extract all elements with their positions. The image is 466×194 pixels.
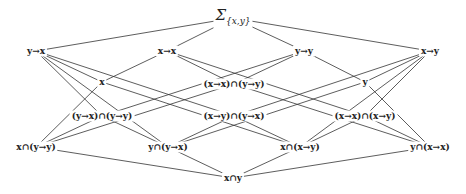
node-xy-and-yx: (x→y)∩(y→x)	[202, 111, 267, 122]
edge-x_to_y-xx_and_xy	[365, 51, 430, 116]
edge-sigma-y_to_x	[36, 18, 233, 51]
node-y-and-xx: y∩(x→x)	[408, 142, 452, 153]
node-x-and-xy: x∩(x→y)	[278, 142, 322, 153]
edge-y_and_xx-x_and_y	[233, 147, 430, 178]
node-y-and-yx: y∩(y→x)	[146, 142, 189, 153]
node-sigma-xy: Σ{x,y}	[213, 7, 252, 29]
edge-y_to_x-yx_and_yy	[36, 51, 102, 116]
node-y: y	[360, 77, 369, 88]
node-x-to-x: x→x	[156, 46, 178, 57]
edge-x_and_yy-x_and_y	[36, 147, 233, 178]
node-x-and-yy: x∩(y→y)	[14, 142, 57, 153]
edge-y_to_x-y_and_yx	[36, 51, 168, 147]
node-y-to-x: y→x	[25, 46, 47, 57]
edge-sigma-x_to_y	[233, 18, 430, 51]
edge-layer	[0, 0, 466, 194]
node-yx-and-yy: (y→x)∩(y→y)	[70, 111, 135, 122]
sigma-label: Σ	[215, 6, 226, 24]
node-xx-and-xy: (x→x)∩(x→y)	[333, 111, 398, 122]
edge-x_to_y-x_and_xy	[300, 51, 430, 147]
sigma-subscript: {x,y}	[226, 16, 250, 26]
node-x-and-y: x∩y	[222, 173, 244, 184]
lattice-diagram: Σ{x,y} y→x x→x y→y x→y x (x→x)∩(y→y) y (…	[0, 0, 466, 194]
node-x-to-y: x→y	[419, 46, 441, 57]
node-xx-and-yy: (x→x)∩(y→y)	[202, 79, 267, 90]
node-x: x	[97, 77, 106, 88]
node-y-to-y: y→y	[293, 46, 315, 57]
